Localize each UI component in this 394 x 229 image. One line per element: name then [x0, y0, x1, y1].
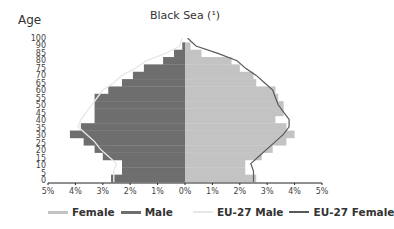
- male-bar: [95, 94, 185, 102]
- female-bar: [185, 101, 284, 109]
- legend-swatch-female: [48, 211, 68, 214]
- female-bar: [185, 138, 286, 146]
- female-bar: [185, 42, 190, 50]
- legend-item-male: Male: [121, 206, 173, 218]
- male-bar: [81, 123, 185, 131]
- female-bar: [185, 86, 275, 94]
- male-bar: [133, 72, 185, 80]
- male-bar: [95, 116, 185, 124]
- x-tick-label: 5%: [42, 187, 55, 196]
- female-bar: [185, 153, 262, 161]
- x-tick-label: 5%: [316, 187, 329, 196]
- female-bar: [185, 94, 278, 102]
- y-tick-label: 0: [41, 176, 46, 185]
- female-bar: [185, 145, 273, 153]
- male-bar: [122, 167, 185, 175]
- x-tick-label: 2%: [233, 187, 246, 196]
- x-tick-label: 4%: [288, 187, 301, 196]
- x-tick-label: 4%: [69, 187, 82, 196]
- male-bar: [95, 109, 185, 117]
- x-tick-label: 3%: [96, 187, 109, 196]
- male-bar: [122, 79, 185, 87]
- legend-label-female: Female: [72, 206, 115, 218]
- male-bar: [144, 64, 185, 72]
- legend-label-male: Male: [145, 206, 173, 218]
- female-bar: [185, 109, 284, 117]
- x-tick-label: 1%: [151, 187, 164, 196]
- x-tick-label: 1%: [206, 187, 219, 196]
- legend-item-eu27-female: EU-27 Female: [289, 206, 394, 218]
- female-bar: [185, 167, 245, 175]
- x-tick-label: 2%: [124, 187, 137, 196]
- legend-swatch-male: [121, 211, 141, 214]
- legend-item-female: Female: [48, 206, 115, 218]
- female-bar: [185, 50, 201, 58]
- male-bar: [103, 153, 185, 161]
- male-bar: [84, 138, 185, 146]
- legend-label-eu27-female: EU-27 Female: [313, 206, 394, 218]
- female-bar: [185, 123, 286, 131]
- female-bar: [185, 72, 254, 80]
- legend-swatch-eu27-male: [193, 211, 213, 213]
- female-bar: [185, 116, 275, 124]
- female-bar: [185, 131, 295, 139]
- x-tick-label: 3%: [261, 187, 274, 196]
- female-bar: [185, 57, 232, 65]
- male-bar: [182, 42, 185, 50]
- male-bar: [163, 57, 185, 65]
- legend-item-eu27-male: EU-27 Male: [193, 206, 284, 218]
- female-bar: [185, 160, 245, 168]
- x-tick-label: 0%: [179, 187, 192, 196]
- legend-label-eu27-male: EU-27 Male: [217, 206, 284, 218]
- male-bar: [111, 175, 185, 183]
- female-bar: [185, 79, 256, 87]
- female-bar: [185, 175, 256, 183]
- male-bar: [174, 50, 185, 58]
- legend-swatch-eu27-female: [289, 211, 309, 213]
- male-bar: [95, 145, 185, 153]
- male-bar: [108, 86, 185, 94]
- female-bar: [185, 64, 240, 72]
- male-bar: [122, 160, 185, 168]
- male-bar: [95, 101, 185, 109]
- legend: Female Male EU-27 Male EU-27 Female: [48, 206, 394, 218]
